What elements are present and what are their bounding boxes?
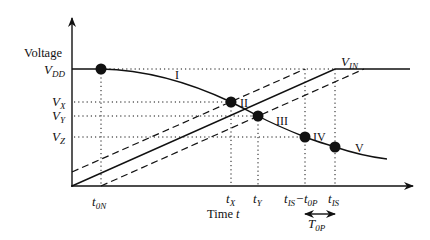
vz-label: VZ bbox=[52, 129, 66, 146]
x-axis-label: Time t bbox=[207, 207, 240, 221]
point-ty bbox=[253, 111, 264, 122]
tis-label: tIS bbox=[328, 191, 340, 208]
region-label-1: I bbox=[175, 68, 179, 82]
vdd-label: VDD bbox=[44, 62, 65, 79]
region-label-5: V bbox=[355, 141, 364, 155]
t0n-label: t0N bbox=[92, 194, 107, 211]
ty-label: tY bbox=[253, 191, 263, 208]
vin-curve bbox=[72, 69, 410, 186]
point-t0n bbox=[96, 64, 107, 75]
point-tis bbox=[330, 142, 341, 153]
tis-minus-t0p-label: tIS−t0P bbox=[284, 191, 318, 208]
region-label-4: IV bbox=[313, 130, 326, 144]
lower-dashed-line bbox=[101, 69, 364, 186]
region-label-2: II bbox=[240, 96, 248, 110]
t0p-interval-label: T0P bbox=[308, 216, 326, 233]
dashed-offset-lines bbox=[72, 69, 364, 186]
region-label-3: III bbox=[276, 114, 288, 128]
voltage-time-diagram: I II III IV V Voltage VDD VX VY VZ VIN t… bbox=[0, 0, 430, 240]
voltage-level-labels: VDD VX VY VZ bbox=[44, 62, 66, 146]
point-tx bbox=[226, 97, 237, 108]
vin-label: VIN bbox=[341, 54, 359, 71]
point-tis-minus-t0p bbox=[300, 132, 311, 143]
y-axis-label: Voltage bbox=[24, 46, 62, 60]
tx-label: tX bbox=[226, 191, 236, 208]
